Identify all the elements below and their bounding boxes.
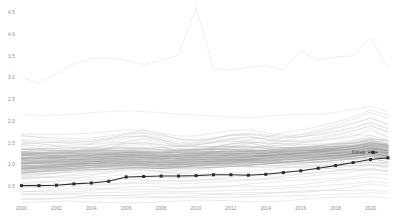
- x-axis-tick-label: 2020: [365, 206, 376, 211]
- y-axis-tick-label: 2.5: [8, 97, 15, 102]
- highlight-data-point-marker[interactable]: [317, 167, 320, 170]
- y-axis-tick-label: 1.0: [8, 162, 15, 167]
- legend-swatch-marker-korea: [372, 151, 375, 154]
- x-axis-tick-label: 2016: [295, 206, 306, 211]
- highlight-data-point-marker[interactable]: [37, 184, 40, 187]
- highlight-data-point-marker[interactable]: [107, 180, 110, 183]
- highlight-data-point-marker[interactable]: [264, 173, 267, 176]
- highlight-data-point-marker[interactable]: [334, 164, 337, 167]
- highlight-data-point-marker[interactable]: [72, 182, 75, 185]
- series-line-faint-variant: [22, 169, 389, 186]
- highlight-data-point-marker[interactable]: [369, 158, 372, 161]
- series-line-faint-variant: [22, 177, 389, 192]
- x-axis-tick-label: 2000: [16, 206, 27, 211]
- highlight-data-point-marker[interactable]: [55, 184, 58, 187]
- series-line-cross-a: [22, 126, 389, 145]
- highlight-data-point-marker[interactable]: [212, 173, 215, 176]
- y-axis-tick-labels: 4.54.03.53.02.52.01.51.00.5: [8, 10, 15, 189]
- highlight-data-point-marker[interactable]: [247, 174, 250, 177]
- highlight-data-point-marker[interactable]: [195, 174, 198, 177]
- series-line-second-high: [22, 106, 389, 117]
- x-axis-tick-label: 2014: [260, 206, 271, 211]
- highlight-data-point-marker[interactable]: [387, 156, 390, 159]
- series-line-faint-variant: [22, 118, 389, 136]
- highlight-data-point-marker[interactable]: [142, 175, 145, 178]
- y-axis-tick-label: 0.5: [8, 184, 15, 189]
- highlight-data-point-marker[interactable]: [160, 175, 163, 178]
- y-axis-tick-label: 3.0: [8, 75, 15, 80]
- x-axis-tick-label: 2006: [121, 206, 132, 211]
- highlight-data-point-marker[interactable]: [20, 184, 23, 187]
- highlight-data-point-marker[interactable]: [282, 171, 285, 174]
- legend-label-korea: Korea: [352, 150, 365, 155]
- background-series-group: [22, 7, 389, 203]
- x-axis-tick-label: 2004: [86, 206, 97, 211]
- highlight-data-point-marker[interactable]: [299, 169, 302, 172]
- highlight-data-point-marker[interactable]: [352, 161, 355, 164]
- x-axis-tick-label: 2018: [330, 206, 341, 211]
- highlight-data-point-marker[interactable]: [229, 173, 232, 176]
- y-axis-tick-label: 1.5: [8, 141, 15, 146]
- chart-container: 4.54.03.53.02.52.01.51.00.5 200020022004…: [0, 0, 394, 222]
- x-axis-tick-label: 2010: [191, 206, 202, 211]
- x-axis-tick-label: 2008: [156, 206, 167, 211]
- x-axis-tick-label: 2002: [51, 206, 62, 211]
- y-axis-tick-label: 3.5: [8, 54, 15, 59]
- x-axis-tick-labels: 2000200220042006200820102012201420162018…: [16, 206, 376, 211]
- y-axis-tick-label: 4.0: [8, 32, 15, 37]
- highlight-data-point-marker[interactable]: [125, 175, 128, 178]
- series-line-faint-variant: [22, 197, 389, 203]
- highlight-data-point-marker[interactable]: [177, 175, 180, 178]
- highlight-data-point-marker[interactable]: [90, 182, 93, 185]
- line-chart-svg: 4.54.03.53.02.52.01.51.00.5 200020022004…: [0, 0, 394, 222]
- y-axis-tick-label: 2.0: [8, 119, 15, 124]
- x-axis-tick-label: 2012: [226, 206, 237, 211]
- series-line-top-outlier: [22, 7, 389, 83]
- y-axis-tick-label: 4.5: [8, 10, 15, 15]
